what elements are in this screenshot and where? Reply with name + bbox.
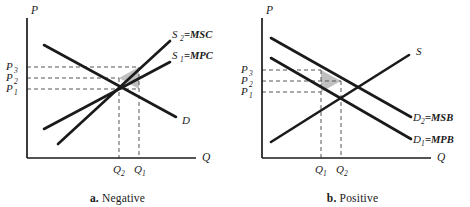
curve-label-demand-social-eq: =MSB	[425, 112, 453, 123]
curve-label-demand-social: D	[412, 111, 421, 123]
panel-a-caption: a. Negative	[0, 192, 235, 204]
price-tick-p1-sub: 1	[249, 91, 253, 100]
price-tick-p2-sub: 2	[14, 77, 18, 86]
price-tick-p3-sub: 3	[13, 66, 18, 75]
panel-positive-externality: P Q P 3 P 2 P 1 Q 1 Q 2 S D	[235, 0, 470, 207]
panel-a-caption-letter: a.	[90, 192, 99, 204]
curve-label-supply-private-eq: =MPC	[184, 50, 214, 61]
dashed-guides	[27, 67, 139, 158]
curve-label-supply-private: S	[172, 49, 178, 61]
price-tick-labels: P 3 P 2 P 1	[5, 60, 18, 97]
y-axis-label: P	[30, 4, 38, 16]
price-tick-p1: P	[5, 82, 13, 94]
panel-a-graph: P Q P 3 P 2 P 1 Q 2 Q 1 S 2	[0, 0, 235, 207]
quantity-tick-q1: Q	[134, 163, 142, 175]
curve-label-demand-private: D	[412, 133, 421, 145]
panel-b-caption: b. Positive	[235, 192, 470, 204]
curve-label-demand-private-eq: =MPB	[425, 134, 454, 145]
curve-label-supply-social-eq: =MSC	[184, 29, 213, 40]
curve-supply-private	[44, 62, 170, 129]
quantity-tick-q2: Q	[113, 163, 121, 175]
quantity-tick-labels: Q 2 Q 1	[113, 163, 146, 178]
axes	[27, 18, 196, 158]
curve-lines	[44, 41, 176, 144]
x-axis-label: Q	[202, 151, 211, 163]
quantity-tick-q1: Q	[315, 163, 323, 175]
curve-label-supply: S	[416, 45, 422, 57]
curve-demand	[44, 45, 176, 117]
quantity-tick-q2-sub: 2	[344, 169, 348, 178]
y-axis-label: P	[265, 4, 273, 16]
price-tick-p1-sub: 1	[14, 88, 18, 97]
price-tick-p1: P	[240, 85, 248, 97]
curve-labels: S D 2 =MSB D 1 =MPB	[412, 45, 454, 148]
quantity-tick-labels: Q 1 Q 2	[315, 163, 348, 178]
quantity-tick-q2: Q	[336, 163, 344, 175]
x-axis-label: Q	[437, 151, 446, 163]
price-tick-p3-sub: 3	[248, 69, 253, 78]
curve-label-supply-social: S	[172, 28, 178, 40]
price-tick-p2-sub: 2	[249, 80, 253, 89]
panel-negative-externality: P Q P 3 P 2 P 1 Q 2 Q 1 S 2	[0, 0, 235, 207]
curve-label-demand: D	[181, 114, 190, 126]
panel-a-caption-text: Negative	[102, 192, 145, 204]
quantity-tick-q2-sub: 2	[121, 169, 125, 178]
externality-figure: P Q P 3 P 2 P 1 Q 2 Q 1 S 2	[0, 0, 470, 207]
price-tick-labels: P 3 P 2 P 1	[240, 63, 253, 100]
panel-b-caption-letter: b.	[327, 192, 337, 204]
panel-b-graph: P Q P 3 P 2 P 1 Q 1 Q 2 S D	[235, 0, 470, 207]
quantity-tick-q1-sub: 1	[142, 169, 146, 178]
panel-b-caption-text: Positive	[340, 192, 379, 204]
curve-labels: S 2 =MSC S 1 =MPC D	[172, 28, 214, 126]
quantity-tick-q1-sub: 1	[323, 169, 327, 178]
